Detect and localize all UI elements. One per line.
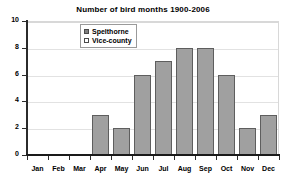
y-tick-8: 8 — [22, 48, 27, 49]
y-tick-mark — [22, 75, 27, 76]
bar-oct — [218, 75, 235, 155]
legend-label-vice-county: Vice-county — [92, 36, 132, 45]
x-label-may: May — [111, 164, 132, 173]
x-tick — [69, 156, 70, 160]
y-tick-mark — [22, 21, 27, 22]
x-tick — [132, 156, 133, 160]
y-tick-mark — [22, 128, 27, 129]
x-tick — [195, 156, 196, 160]
y-tick-label: 4 — [15, 96, 19, 104]
bar-jun — [134, 75, 151, 155]
x-label-jan: Jan — [27, 164, 48, 173]
bar-sep — [197, 48, 214, 155]
x-label-aug: Aug — [174, 164, 195, 173]
x-tick — [153, 156, 154, 160]
legend-item-spelthorne: Spelthorne — [84, 27, 132, 36]
x-tick — [216, 156, 217, 160]
y-tick-4: 4 — [22, 101, 27, 102]
x-label-jul: Jul — [153, 164, 174, 173]
x-tick — [174, 156, 175, 160]
x-label-feb: Feb — [48, 164, 69, 173]
legend-item-vice-county: Vice-county — [84, 36, 132, 45]
chart-title: Number of bird months 1900-2006 — [0, 5, 286, 15]
bar-chart: Number of bird months 1900-2006 0246810 … — [0, 0, 286, 179]
legend-label-spelthorne: Spelthorne — [92, 27, 129, 36]
bar-may — [113, 128, 130, 155]
x-tick — [90, 156, 91, 160]
gridline-6 — [27, 76, 278, 77]
chart-legend: Spelthorne Vice-county — [80, 24, 137, 48]
x-tick — [258, 156, 259, 160]
gridline-10 — [27, 22, 278, 23]
x-tick — [48, 156, 49, 160]
x-label-oct: Oct — [216, 164, 237, 173]
x-label-dec: Dec — [258, 164, 279, 173]
y-tick-label: 0 — [15, 150, 19, 158]
x-tick — [27, 156, 28, 160]
y-tick-label: 10 — [11, 16, 19, 24]
x-label-mar: Mar — [69, 164, 90, 173]
y-axis-line — [26, 20, 28, 156]
bar-dec — [260, 115, 277, 155]
x-label-jun: Jun — [132, 164, 153, 173]
y-tick-mark — [22, 48, 27, 49]
bar-jul — [155, 61, 172, 155]
gridline-8 — [27, 49, 278, 50]
x-label-apr: Apr — [90, 164, 111, 173]
x-tick — [279, 156, 280, 160]
y-tick-label: 8 — [15, 43, 19, 51]
gridline-4 — [27, 102, 278, 103]
plot-area — [27, 21, 279, 155]
bar-nov — [239, 128, 256, 155]
y-tick-10: 10 — [22, 21, 27, 22]
legend-swatch-icon-spelthorne — [84, 29, 89, 34]
bar-aug — [176, 48, 193, 155]
y-tick-2: 2 — [22, 128, 27, 129]
x-tick — [237, 156, 238, 160]
x-label-nov: Nov — [237, 164, 258, 173]
y-tick-6: 6 — [22, 75, 27, 76]
y-tick-label: 6 — [15, 70, 19, 78]
y-tick-label: 2 — [15, 123, 19, 131]
y-tick-mark — [22, 101, 27, 102]
x-tick — [111, 156, 112, 160]
x-label-sep: Sep — [195, 164, 216, 173]
legend-swatch-icon-vice-county — [84, 38, 89, 43]
bar-apr — [92, 115, 109, 155]
